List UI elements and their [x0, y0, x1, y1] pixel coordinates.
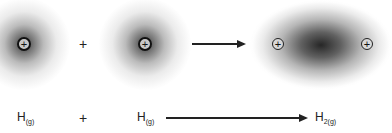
hydrogen-molecule-nucleus-right-icon: + — [361, 38, 373, 50]
reactant-1-label: H(g) — [17, 110, 34, 125]
product-label: H2(g) — [315, 110, 336, 125]
reaction-arrow-top-icon — [192, 43, 244, 45]
product-element: H — [315, 110, 324, 124]
reaction-arrow-bottom-icon — [166, 117, 306, 119]
hydrogen-molecule-nucleus-left-icon: + — [272, 38, 284, 50]
reactant-1-element: H — [17, 110, 26, 124]
hydrogen-atom-1-nucleus-icon: + — [17, 37, 31, 51]
reactant-2-state: (g) — [146, 118, 155, 125]
plus-operator-bottom: + — [79, 111, 87, 125]
reactant-2-label: H(g) — [137, 110, 154, 125]
plus-operator-top: + — [79, 37, 87, 51]
hydrogen-atom-2-nucleus-icon: + — [138, 37, 152, 51]
reactant-2-element: H — [137, 110, 146, 124]
product-state: 2(g) — [324, 118, 336, 125]
reactant-1-state: (g) — [26, 118, 35, 125]
hydrogen-atom-1-electron-cloud — [0, 0, 70, 90]
